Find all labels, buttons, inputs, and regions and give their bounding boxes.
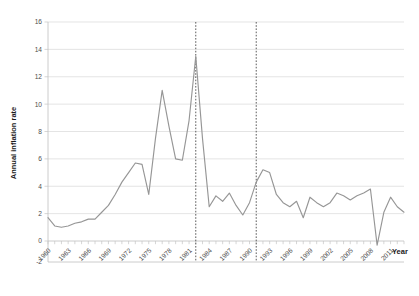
gridlines-group [48,22,404,262]
x-tick-label-1999: 1999 [299,247,315,263]
x-tick-label-1963: 1963 [57,247,73,263]
x-tick-label-1978: 1978 [157,247,173,263]
y-tick-label-0: 0 [38,237,42,244]
y-tick-label-2: 2 [38,210,42,217]
y-tick-label-14: 14 [35,46,43,53]
y-tick-label-8: 8 [38,128,42,135]
x-tick-label-2008: 2008 [359,247,375,263]
x-tick-label-1993: 1993 [258,247,274,263]
x-tick-label-1969: 1969 [97,247,113,263]
x-tick-label-1984: 1984 [198,247,214,263]
x-tick-label-1972: 1972 [117,247,133,263]
y-tick-label-10: 10 [35,101,43,108]
x-tick-label-1987: 1987 [218,247,234,263]
y-tick-label-16: 16 [35,18,43,25]
y-axis-tick-labels: -20246810121416 [35,18,48,265]
x-tick-marks-group [48,241,404,244]
chart-canvas: -20246810121416 196019631966196919721975… [0,0,419,296]
annotation-lines-group [196,22,256,262]
data-series-group [48,56,404,245]
x-axis-title: Year [392,247,408,256]
x-tick-label-1981: 1981 [178,247,194,263]
y-tick-label-6: 6 [38,155,42,162]
y-tick-label-4: 4 [38,183,42,190]
x-tick-label-1996: 1996 [278,247,294,263]
x-tick-label-1966: 1966 [77,247,93,263]
y-tick-label-12: 12 [35,73,43,80]
x-tick-label-1960: 1960 [37,247,53,263]
inflation-rate-line-chart: -20246810121416 196019631966196919721975… [0,0,419,296]
y-axis-title: Annual inflation rate [9,107,18,180]
x-tick-label-1975: 1975 [137,247,153,263]
x-tick-label-2002: 2002 [319,247,335,263]
x-tick-label-1990: 1990 [238,247,254,263]
x-tick-label-2005: 2005 [339,247,355,263]
inflation-rate-line [48,56,404,245]
x-axis-tick-labels: 1960196319661969197219751978198119841987… [37,247,395,263]
